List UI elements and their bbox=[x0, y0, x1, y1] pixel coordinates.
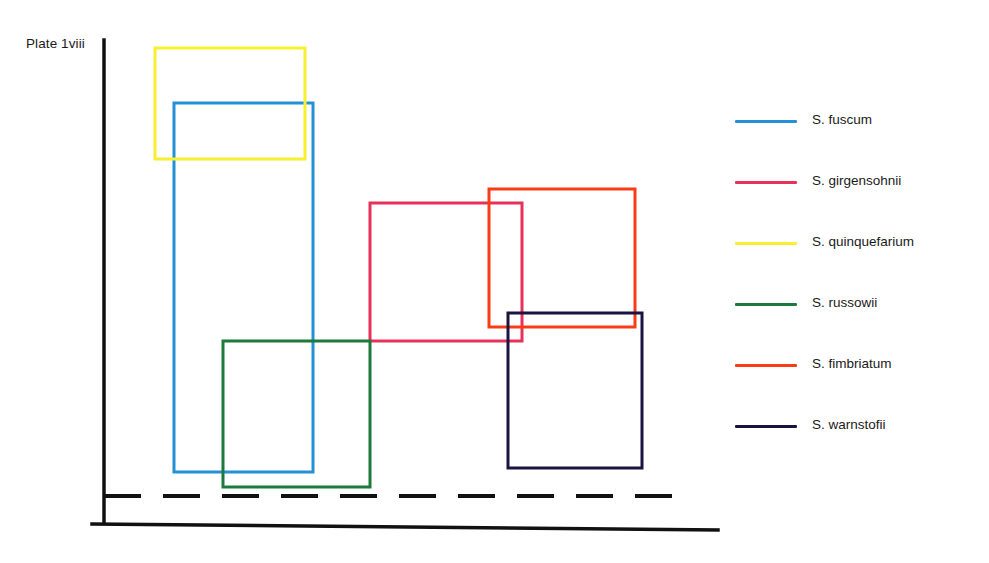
legend: S. fuscumS. girgensohniiS. quinquefarium… bbox=[735, 104, 985, 470]
x-axis bbox=[92, 524, 718, 530]
legend-item-s-girgensohnii[interactable]: S. girgensohnii bbox=[735, 165, 985, 226]
legend-label: S. warnstofii bbox=[812, 417, 886, 432]
legend-label: S. girgensohnii bbox=[812, 173, 901, 188]
legend-swatch-icon bbox=[735, 364, 797, 367]
species-rect-s-russowii bbox=[223, 341, 370, 487]
legend-swatch-icon bbox=[735, 242, 797, 245]
legend-swatch-icon bbox=[735, 303, 797, 306]
species-rect-s-girgensohnii bbox=[370, 203, 522, 341]
legend-swatch-icon bbox=[735, 181, 797, 184]
legend-swatch-icon bbox=[735, 120, 797, 123]
legend-item-s-warnstofii[interactable]: S. warnstofii bbox=[735, 409, 985, 470]
species-rectangles-group bbox=[155, 48, 642, 487]
legend-label: S. quinquefarium bbox=[812, 234, 914, 249]
legend-label: S. russowii bbox=[812, 295, 877, 310]
legend-item-s-quinquefarium[interactable]: S. quinquefarium bbox=[735, 226, 985, 287]
legend-item-s-russowii[interactable]: S. russowii bbox=[735, 287, 985, 348]
species-rect-s-warnstofii bbox=[508, 313, 642, 468]
legend-item-s-fuscum[interactable]: S. fuscum bbox=[735, 104, 985, 165]
legend-label: S. fimbriatum bbox=[812, 356, 892, 371]
species-rect-s-fimbriatum bbox=[489, 189, 635, 327]
legend-label: S. fuscum bbox=[812, 112, 872, 127]
legend-item-s-fimbriatum[interactable]: S. fimbriatum bbox=[735, 348, 985, 409]
figure-panel: Plate 1viii S. fuscumS. girgensohniiS. q… bbox=[0, 0, 989, 563]
legend-swatch-icon bbox=[735, 425, 797, 428]
